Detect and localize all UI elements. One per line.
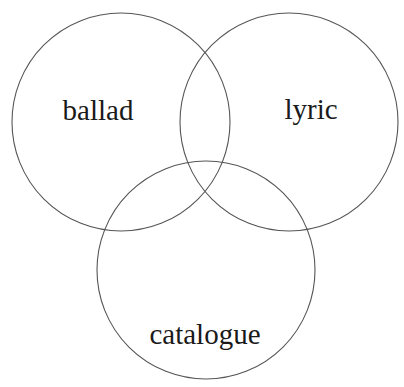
label-lyric: lyric: [284, 95, 337, 124]
label-ballad: ballad: [63, 96, 134, 125]
label-catalogue: catalogue: [149, 320, 260, 349]
venn-diagram: ballad lyric catalogue: [0, 0, 404, 387]
